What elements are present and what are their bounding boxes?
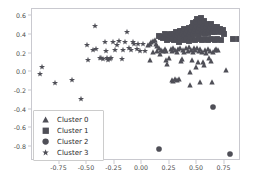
x-axis-tick-mark: [168, 160, 169, 164]
y-axis-tick-label: -0.6: [0, 124, 26, 131]
y-axis-tick-mark: [28, 108, 32, 109]
star-data-point: [118, 56, 125, 63]
triangle-data-point: [187, 69, 193, 75]
triangle-data-point: [201, 62, 207, 68]
square-data-point: [161, 31, 168, 38]
legend-item[interactable]: Cluster 3: [38, 147, 99, 158]
star-data-point: [37, 71, 44, 78]
star-marker-icon: [38, 149, 54, 156]
legend-item-label: Cluster 3: [57, 149, 89, 157]
star-data-point: [78, 96, 85, 103]
legend-item-label: Cluster 1: [57, 127, 89, 135]
y-axis-tick-label: 0.6: [0, 12, 26, 19]
triangle-data-point: [187, 82, 193, 88]
triangle-data-point: [179, 56, 185, 62]
y-axis-tick-label: -0.4: [0, 105, 26, 112]
triangle-data-point: [189, 57, 195, 63]
star-data-point: [52, 80, 59, 87]
y-axis-tick-mark: [28, 34, 32, 35]
triangle-marker-icon: [38, 116, 54, 123]
star-data-point: [105, 57, 112, 64]
circle-marker-icon: [38, 138, 54, 145]
triangle-data-point: [209, 79, 215, 85]
y-axis-tick-mark: [28, 90, 32, 91]
x-axis-tick-mark: [196, 160, 197, 164]
star-data-point: [124, 29, 131, 36]
legend-item-label: Cluster 2: [57, 138, 89, 146]
legend-item-label: Cluster 0: [57, 116, 89, 124]
star-data-point: [69, 77, 76, 84]
circle-data-point: [227, 151, 233, 157]
square-data-point: [236, 36, 239, 43]
triangle-data-point: [176, 76, 182, 82]
y-axis-tick-label: -0.2: [0, 87, 26, 94]
y-axis-tick-label: 0.2: [0, 49, 26, 56]
star-data-point: [93, 45, 100, 52]
y-axis-tick-mark: [28, 127, 32, 128]
triangle-data-point: [163, 57, 169, 63]
triangle-data-point: [193, 64, 199, 70]
circle-data-point: [156, 146, 162, 152]
star-data-point: [85, 57, 92, 64]
triangle-data-point: [215, 47, 221, 53]
legend: Cluster 0Cluster 1Cluster 2Cluster 3: [33, 110, 104, 161]
scatter-plot-figure: 0.60.40.20.0-0.2-0.4-0.6-0.8 -0.75-0.50-…: [0, 0, 254, 184]
legend-item[interactable]: Cluster 1: [38, 125, 99, 136]
x-axis-tick-mark: [141, 160, 142, 164]
y-axis-tick-mark: [28, 52, 32, 53]
square-marker-icon: [38, 127, 54, 135]
triangle-data-point: [206, 55, 212, 61]
star-data-point: [91, 22, 98, 29]
x-axis-tick-mark: [113, 160, 114, 164]
y-axis-tick-label: 0.0: [0, 68, 26, 75]
triangle-data-point: [197, 79, 203, 85]
y-axis-tick-mark: [28, 71, 32, 72]
y-axis-tick-label: 0.4: [0, 31, 26, 38]
x-axis-tick-label: 0.75: [204, 164, 244, 171]
star-data-point: [141, 47, 148, 54]
square-data-point: [217, 37, 224, 44]
circle-data-point: [210, 104, 216, 110]
legend-item[interactable]: Cluster 0: [38, 114, 99, 125]
star-data-point: [102, 39, 109, 46]
y-axis-tick-mark: [28, 146, 32, 147]
triangle-data-point: [147, 57, 153, 63]
star-data-point: [102, 47, 109, 54]
y-axis-tick-mark: [28, 15, 32, 16]
triangle-data-point: [223, 67, 229, 73]
x-axis-tick-mark: [223, 160, 224, 164]
y-axis-tick-label: -0.8: [0, 143, 26, 150]
legend-item[interactable]: Cluster 2: [38, 136, 99, 147]
